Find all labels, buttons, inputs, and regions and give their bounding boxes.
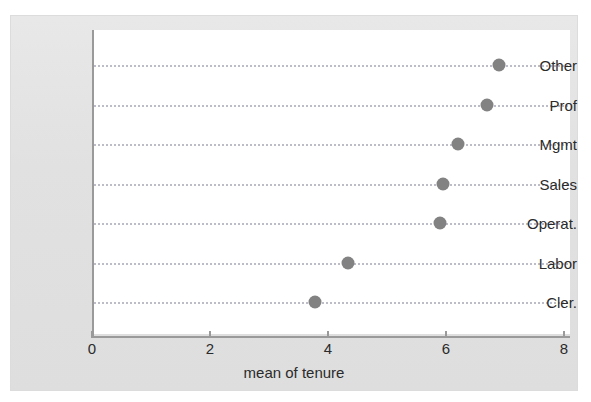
- y-tick-label-cler: Cler.: [499, 295, 577, 310]
- y-tick-label-prof: Prof: [499, 97, 577, 112]
- y-tick-label-mgmt: Mgmt: [499, 137, 577, 152]
- x-tick-mark-6: [445, 331, 447, 338]
- gridline-sales: [94, 184, 568, 186]
- data-point-labor: [342, 256, 355, 269]
- data-point-cler: [309, 296, 322, 309]
- gridline-operat: [94, 223, 568, 225]
- data-point-prof: [481, 98, 494, 111]
- data-point-operat: [434, 217, 447, 230]
- x-axis-title: mean of tenure: [11, 365, 577, 380]
- data-point-other: [493, 59, 506, 72]
- x-tick-mark-0: [91, 331, 93, 338]
- data-point-sales: [437, 177, 450, 190]
- y-tick-label-sales: Sales: [499, 176, 577, 191]
- y-tick-label-other: Other: [499, 58, 577, 73]
- x-tick-mark-8: [563, 331, 565, 338]
- gridline-labor: [94, 263, 568, 265]
- x-tick-mark-4: [327, 331, 329, 338]
- x-tick-label-0: 0: [88, 341, 96, 356]
- chart-card: OtherProfMgmtSalesOperat.LaborCler. 0246…: [11, 16, 577, 390]
- x-tick-mark-2: [209, 331, 211, 338]
- x-tick-label-6: 6: [442, 341, 450, 356]
- x-axis-line: [92, 336, 570, 338]
- y-tick-label-operat: Operat.: [499, 216, 577, 231]
- x-tick-label-4: 4: [324, 341, 332, 356]
- gridline-prof: [94, 105, 568, 107]
- gridline-mgmt: [94, 144, 568, 146]
- x-tick-label-2: 2: [206, 341, 214, 356]
- figure-root: OtherProfMgmtSalesOperat.LaborCler. 0246…: [0, 0, 591, 402]
- y-tick-label-labor: Labor: [499, 255, 577, 270]
- data-point-mgmt: [451, 138, 464, 151]
- x-tick-label-8: 8: [560, 341, 568, 356]
- gridline-cler: [94, 302, 568, 304]
